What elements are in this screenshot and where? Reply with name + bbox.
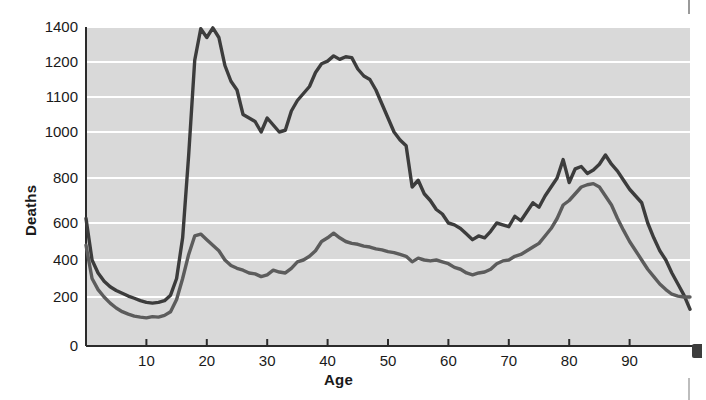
- plot-area: [0, 0, 706, 400]
- page-edge-artifact-top: [688, 0, 690, 14]
- page-edge-mark: [692, 344, 702, 358]
- deaths-by-age-chart: Deaths Age 02004006008001000110012001400…: [0, 0, 706, 400]
- page-edge-artifact-bottom: [688, 378, 690, 400]
